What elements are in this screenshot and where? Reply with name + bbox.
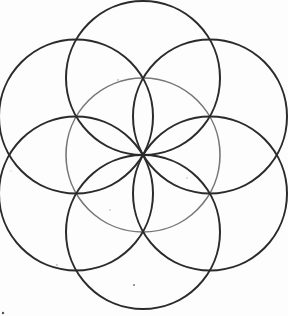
seed-of-life-figure: Seed of Life [0,0,288,316]
circle-pattern [0,0,288,316]
paper-speckles [2,79,188,314]
